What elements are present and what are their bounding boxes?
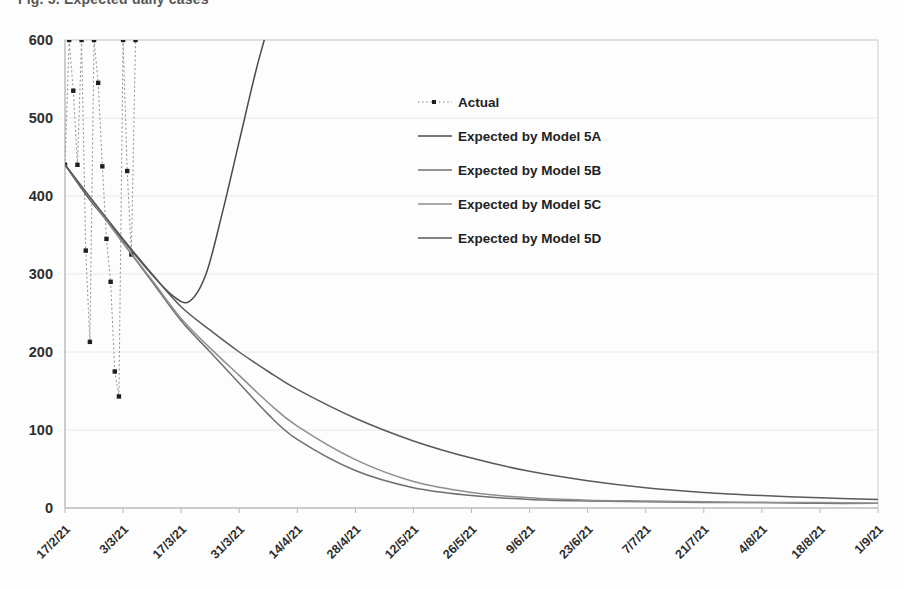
actual-connector <box>127 171 131 254</box>
actual-marker <box>108 280 112 284</box>
y-tick-label: 300 <box>29 266 53 282</box>
series-expected-by-model-5d <box>65 165 878 500</box>
actual-connector <box>86 251 90 342</box>
y-tick-label: 200 <box>29 344 53 360</box>
x-tick-label: 21/7/21 <box>673 522 712 561</box>
actual-marker <box>96 81 100 85</box>
actual-marker <box>133 38 137 42</box>
x-tick-label: 23/6/21 <box>556 522 595 561</box>
series-line <box>65 165 878 500</box>
series-expected-by-model-5a <box>65 0 297 303</box>
x-tick-label: 28/4/21 <box>324 522 363 561</box>
actual-marker <box>125 169 129 173</box>
x-tick-label: 14/4/21 <box>266 522 305 561</box>
x-tick-label: 4/8/21 <box>735 522 770 557</box>
figure-container: Fig. 5. Expected daily cases 01002003004… <box>0 0 904 589</box>
y-tick-label: 600 <box>29 32 53 48</box>
y-tick-label: 0 <box>45 500 53 516</box>
gridlines-group <box>65 40 878 508</box>
legend-label: Expected by Model 5A <box>458 129 602 144</box>
series-line <box>65 165 878 504</box>
actual-connector <box>90 40 94 342</box>
actual-connector <box>82 40 86 251</box>
actual-marker <box>100 164 104 168</box>
x-tick-label: 7/7/21 <box>619 522 654 557</box>
series-line <box>65 165 878 504</box>
chart-canvas: 0100200300400500600 17/2/213/3/2117/3/21… <box>0 0 904 589</box>
actual-connector <box>69 40 73 91</box>
x-tick-label: 18/8/21 <box>789 522 828 561</box>
data-series-group <box>63 0 878 503</box>
actual-connector <box>123 40 127 171</box>
actual-connector <box>98 83 102 166</box>
actual-connector <box>102 166 106 239</box>
series-line <box>65 0 297 303</box>
actual-marker <box>88 340 92 344</box>
legend-label: Actual <box>458 95 499 110</box>
actual-marker <box>67 38 71 42</box>
x-tick-label: 3/3/21 <box>97 522 132 557</box>
actual-marker <box>113 369 117 373</box>
y-tick-label: 500 <box>29 110 53 126</box>
y-tick-label: 100 <box>29 422 53 438</box>
actual-connector <box>115 372 119 397</box>
actual-marker <box>75 163 79 167</box>
actual-marker <box>117 394 121 398</box>
actual-marker <box>71 89 75 93</box>
series-actual <box>63 38 138 399</box>
actual-connector <box>77 40 81 165</box>
actual-connector <box>119 40 123 396</box>
x-tick-label: 26/5/21 <box>440 522 479 561</box>
x-tick-label: 1/9/21 <box>852 522 887 557</box>
x-tick-label: 17/2/21 <box>34 522 73 561</box>
legend-label: Expected by Model 5C <box>458 197 602 212</box>
actual-connector <box>94 40 98 83</box>
legend-label: Expected by Model 5D <box>458 231 602 246</box>
y-tick-label: 400 <box>29 188 53 204</box>
legend-label: Expected by Model 5B <box>458 163 602 178</box>
x-tick-label: 31/3/21 <box>208 522 247 561</box>
actual-connector <box>111 282 115 372</box>
actual-connector <box>73 91 77 165</box>
actual-connector <box>106 239 110 282</box>
y-axis-tick-labels: 0100200300400500600 <box>29 32 53 516</box>
series-expected-by-model-5c <box>65 165 878 504</box>
actual-marker <box>79 38 83 42</box>
actual-connector <box>131 40 135 255</box>
actual-marker <box>104 237 108 241</box>
x-tick-label: 9/6/21 <box>503 522 538 557</box>
actual-marker <box>92 38 96 42</box>
legend-marker <box>432 100 436 104</box>
figure-caption: Fig. 5. Expected daily cases <box>18 0 209 7</box>
actual-marker <box>84 248 88 252</box>
x-axis-tick-labels: 17/2/213/3/2117/3/2131/3/2114/4/2128/4/2… <box>34 508 886 562</box>
x-tick-label: 12/5/21 <box>382 522 421 561</box>
x-tick-label: 17/3/21 <box>150 522 189 561</box>
series-expected-by-model-5b <box>65 165 878 504</box>
actual-connector <box>65 40 69 165</box>
actual-marker <box>121 38 125 42</box>
